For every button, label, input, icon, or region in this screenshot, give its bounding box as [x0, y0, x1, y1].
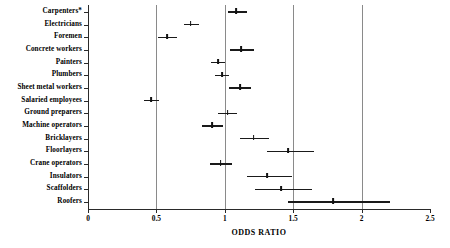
x-tick-2 — [225, 209, 226, 213]
y-tick-2 — [84, 37, 88, 38]
odds-ratio-point — [235, 8, 237, 13]
gridline-x-1-5 — [293, 5, 294, 209]
gridline-x-2 — [362, 5, 363, 209]
odds-ratio-point — [166, 34, 168, 39]
y-tick-12 — [84, 164, 88, 165]
x-tick-3 — [293, 209, 294, 213]
x-tick-label-5: 2.5 — [425, 214, 434, 223]
confidence-interval-bar — [255, 189, 312, 191]
category-label: Plumbers — [52, 72, 82, 79]
x-tick-4 — [362, 209, 363, 213]
category-label: Bricklayers — [45, 135, 82, 142]
category-label: Insulators — [50, 173, 82, 180]
x-tick-label-0: 0 — [86, 214, 90, 223]
y-tick-15 — [84, 202, 88, 203]
forest-plot-figure: Carpenters*ElectriciansForemenConcrete w… — [0, 0, 450, 248]
y-tick-13 — [84, 177, 88, 178]
odds-ratio-point — [240, 46, 242, 51]
x-axis-line — [88, 209, 430, 210]
confidence-interval-bar — [288, 201, 391, 203]
gridline-x-1 — [225, 5, 226, 209]
y-tick-5 — [84, 75, 88, 76]
category-label: Salaried employees — [21, 97, 82, 104]
x-tick-label-3: 1.5 — [289, 214, 298, 223]
odds-ratio-point — [266, 173, 268, 178]
odds-ratio-point — [239, 84, 241, 89]
category-label: Sheet metal workers — [17, 84, 82, 91]
y-tick-14 — [84, 189, 88, 190]
y-tick-10 — [84, 139, 88, 140]
odds-ratio-point — [332, 198, 334, 203]
y-tick-3 — [84, 50, 88, 51]
category-label: Carpenters* — [43, 8, 82, 15]
y-tick-0 — [84, 12, 88, 13]
category-label: Electricians — [44, 21, 82, 28]
y-tick-11 — [84, 151, 88, 152]
category-label: Foremen — [54, 34, 82, 41]
category-label: Concrete workers — [26, 46, 82, 53]
odds-ratio-point — [221, 72, 223, 77]
y-tick-9 — [84, 126, 88, 127]
x-axis-title: ODDS RATIO — [232, 228, 287, 237]
confidence-interval-bar — [228, 11, 247, 13]
odds-ratio-point — [212, 122, 214, 127]
category-label-column: Carpenters*ElectriciansForemenConcrete w… — [0, 0, 84, 215]
x-tick-label-4: 2 — [360, 214, 364, 223]
x-tick-0 — [88, 209, 89, 213]
y-axis-line — [88, 5, 89, 210]
y-tick-8 — [84, 113, 88, 114]
odds-ratio-point — [150, 97, 152, 102]
y-tick-6 — [84, 88, 88, 89]
category-label: Floorlayers — [46, 148, 82, 155]
odds-ratio-point — [190, 21, 192, 26]
category-label: Painters — [56, 59, 82, 66]
confidence-interval-bar — [247, 176, 292, 178]
category-label: Machine operators — [22, 122, 82, 129]
odds-ratio-point — [220, 160, 222, 165]
y-tick-7 — [84, 101, 88, 102]
y-tick-4 — [84, 63, 88, 64]
x-tick-5 — [430, 209, 431, 213]
confidence-interval-bar — [267, 151, 314, 153]
category-label: Scaffolders — [47, 186, 82, 193]
odds-ratio-point — [227, 110, 229, 115]
x-tick-label-1: 0.5 — [152, 214, 161, 223]
y-tick-1 — [84, 25, 88, 26]
x-tick-label-2: 1 — [223, 214, 227, 223]
odds-ratio-point — [280, 186, 282, 191]
category-label: Ground preparers — [24, 110, 82, 117]
category-label: Crane operators — [30, 160, 82, 167]
category-label: Roofers — [57, 198, 82, 205]
odds-ratio-point — [253, 135, 255, 140]
odds-ratio-point — [287, 148, 289, 153]
x-tick-1 — [156, 209, 157, 213]
odds-ratio-point — [217, 59, 219, 64]
